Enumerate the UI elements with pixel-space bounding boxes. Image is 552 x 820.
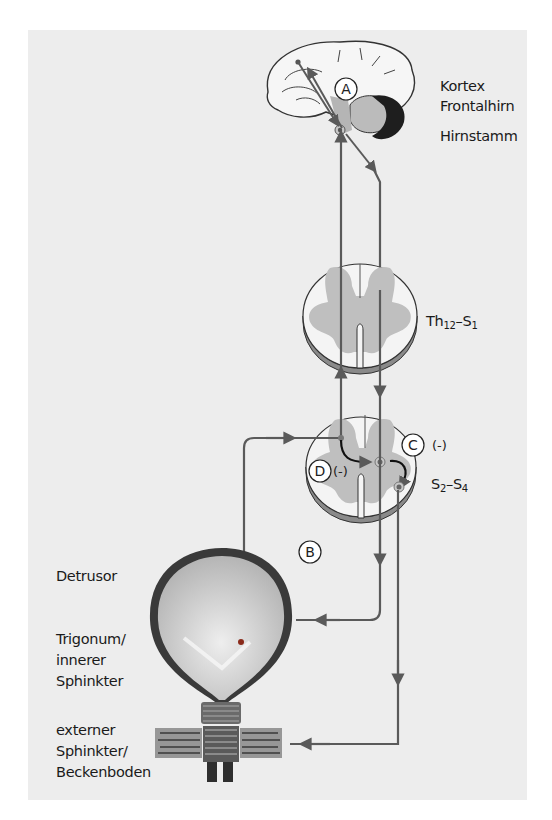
- marker-d: D (-): [309, 460, 348, 482]
- label-trigonum-line3: Sphinkter: [56, 671, 123, 692]
- marker-c: C (-): [402, 434, 447, 456]
- label-trigonum-line2: innerer: [56, 650, 106, 671]
- svg-text:C: C: [408, 437, 418, 453]
- svg-text:(-): (-): [333, 464, 348, 479]
- spinal-cord-th12-s1-icon: [303, 264, 417, 374]
- marker-a: A: [335, 78, 357, 100]
- svg-text:D: D: [315, 463, 326, 479]
- label-frontalhirn: Frontalhirn: [440, 96, 514, 117]
- svg-text:B: B: [305, 544, 315, 560]
- label-kortex: Kortex: [440, 76, 485, 97]
- label-th12-s1: Th12–S1: [426, 311, 478, 336]
- micturition-pathway-diagram: A C (-): [0, 0, 552, 820]
- bladder-icon: [150, 548, 292, 782]
- external-sphincter-efferent-pathway: [290, 490, 398, 744]
- label-s2-s4: S2–S4: [431, 474, 468, 499]
- label-externer-line1: externer: [56, 720, 115, 741]
- label-externer-line2: Sphinkter/: [56, 741, 128, 762]
- label-detrusor: Detrusor: [56, 566, 117, 587]
- brainstem-descending-tract: [346, 134, 373, 168]
- label-trigonum-line1: Trigonum/: [56, 629, 125, 650]
- svg-text:A: A: [341, 81, 351, 97]
- svg-text:(-): (-): [432, 438, 447, 453]
- marker-b: B: [299, 541, 321, 563]
- label-externer-line3: Beckenboden: [56, 762, 151, 783]
- label-hirnstamm: Hirnstamm: [440, 126, 518, 147]
